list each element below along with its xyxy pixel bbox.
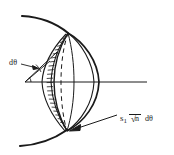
flux-subscript: 1	[124, 117, 128, 125]
wavefront-arc-top	[22, 16, 68, 33]
flux-radical-icon: √n	[129, 113, 140, 123]
optics-diagram	[0, 0, 174, 155]
flux-differential: dθ	[145, 114, 153, 123]
angle-wedge	[25, 52, 57, 82]
dtheta-label: dθ	[9, 58, 17, 67]
wedge-lower-ray	[25, 61, 50, 82]
angle-vertex-marker-icon	[29, 78, 31, 82]
wavefront-arc-bottom	[20, 130, 67, 146]
radical-glyph: √	[131, 114, 136, 124]
flux-label: s1√ndθ	[120, 113, 153, 125]
radical-bar	[129, 114, 141, 115]
